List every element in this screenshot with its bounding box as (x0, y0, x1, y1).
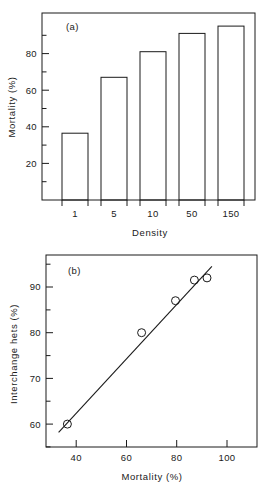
panel-b-y-minor-ticks (46, 264, 51, 447)
data-point-2 (138, 329, 146, 337)
panel-a-x-ticks (62, 200, 244, 206)
data-point-4 (190, 276, 198, 284)
bar-density-50 (179, 33, 205, 200)
panel-a-ytick-label-40: 40 (26, 121, 37, 132)
panel-a-ytick-label-20: 20 (26, 158, 37, 169)
panel-b-ytick-label-70: 70 (30, 373, 41, 384)
panel-b-regression-line (59, 266, 212, 432)
data-point-3 (172, 297, 180, 305)
data-point-5 (203, 274, 211, 282)
panel-a-bars (62, 26, 244, 200)
bar-density-10 (140, 52, 166, 200)
panel-a-bar-chart: (a) 20 40 60 80 Mortality (%) (0, 0, 266, 244)
panel-b-x-ticks (76, 440, 227, 447)
panel-b-y-axis-title: Interchange hets (%) (8, 304, 19, 404)
panel-a-y-minor-ticks (42, 35, 47, 181)
panel-b-ytick-label-60: 60 (30, 419, 41, 430)
panel-a-xtick-label-10: 10 (147, 208, 158, 219)
panel-a-ytick-label-60: 60 (26, 85, 37, 96)
panel-a-plot-frame (42, 13, 255, 200)
panel-a-x-axis-title: Density (132, 227, 168, 238)
panel-b-xtick-label-100: 100 (218, 452, 235, 463)
bar-density-5 (101, 77, 127, 200)
bar-density-1 (62, 133, 88, 200)
panel-b-tag: (b) (68, 265, 81, 276)
panel-b-ytick-label-90: 90 (30, 281, 41, 292)
panel-a-tag: (a) (66, 21, 79, 32)
panel-a-xtick-label-5: 5 (111, 208, 117, 219)
panel-b-xtick-label-80: 80 (171, 452, 182, 463)
panel-b-xtick-label-60: 60 (121, 452, 132, 463)
panel-a-y-axis-title: Mortality (%) (6, 76, 17, 137)
figure-container: (a) 20 40 60 80 Mortality (%) (0, 0, 266, 487)
panel-a-svg: (a) 20 40 60 80 Mortality (%) (0, 0, 266, 244)
panel-a-xtick-label-150: 150 (222, 208, 239, 219)
panel-b-svg: (b) 60 70 80 90 Interchange he (0, 244, 266, 487)
panel-a-xtick-label-1: 1 (72, 208, 78, 219)
bar-density-150 (218, 26, 244, 200)
panel-a-ytick-label-80: 80 (26, 48, 37, 59)
panel-b-xtick-label-40: 40 (71, 452, 82, 463)
panel-a-xtick-label-50: 50 (186, 208, 197, 219)
panel-b-plot-frame (46, 255, 257, 447)
panel-b-scatter-chart: (b) 60 70 80 90 Interchange he (0, 244, 266, 487)
data-point-1 (63, 420, 71, 428)
panel-b-x-axis-title: Mortality (%) (121, 471, 182, 482)
panel-b-ytick-label-80: 80 (30, 327, 41, 338)
panel-b-data-points (63, 274, 211, 428)
